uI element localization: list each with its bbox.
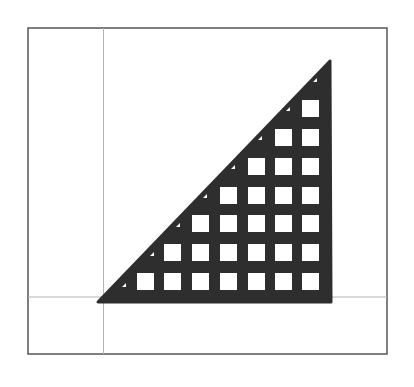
- square-hole: [248, 187, 265, 204]
- square-hole: [275, 129, 292, 146]
- square-hole: [302, 215, 319, 232]
- square-hole: [302, 158, 319, 175]
- square-hole: [192, 273, 209, 290]
- square-hole: [248, 215, 265, 232]
- square-hole: [302, 187, 319, 204]
- triangle-grid-diagram: [0, 0, 414, 387]
- square-hole: [220, 273, 237, 290]
- square-hole: [220, 187, 237, 204]
- square-hole: [192, 244, 209, 261]
- square-hole: [275, 158, 292, 175]
- square-hole: [302, 129, 319, 146]
- square-hole: [248, 158, 265, 175]
- square-hole: [302, 100, 319, 117]
- square-hole: [220, 244, 237, 261]
- square-hole: [248, 273, 265, 290]
- square-hole: [275, 215, 292, 232]
- square-hole: [275, 244, 292, 261]
- square-hole: [137, 273, 154, 290]
- square-hole: [302, 273, 319, 290]
- square-hole: [275, 273, 292, 290]
- square-hole: [164, 244, 181, 261]
- square-hole: [248, 244, 265, 261]
- square-hole: [164, 273, 181, 290]
- perforated-triangle: [98, 61, 331, 302]
- square-hole: [302, 244, 319, 261]
- square-hole: [192, 215, 209, 232]
- square-hole: [220, 215, 237, 232]
- square-hole: [275, 187, 292, 204]
